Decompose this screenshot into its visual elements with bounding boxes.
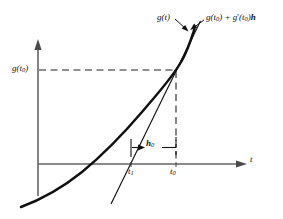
- x-axis-arrow-icon: [236, 160, 247, 167]
- figure-canvas: [0, 0, 283, 219]
- annotation-leaders-group: [175, 19, 204, 31]
- h0-arrow-head-icon: [138, 145, 145, 151]
- function-curve: [21, 29, 195, 207]
- y-axis-value-label: g(t0): [12, 64, 28, 74]
- tangent-line-label: g(t0) + g'(t0)h: [206, 13, 256, 23]
- step-size-label: h0: [146, 139, 154, 149]
- h0-dimension-bracket: [131, 137, 180, 157]
- t0-axis-label: t0: [170, 167, 176, 177]
- curve-label: g(t): [157, 13, 170, 22]
- y-axis-arrow-icon: [34, 39, 41, 50]
- newton-method-figure: g(t) g(t0) + g'(t0)h g(t0) h0 t1 t0 t: [0, 0, 283, 219]
- t1-axis-label: t1: [128, 167, 134, 177]
- t-axis-name-label: t: [250, 155, 253, 164]
- axes-group: [34, 39, 247, 196]
